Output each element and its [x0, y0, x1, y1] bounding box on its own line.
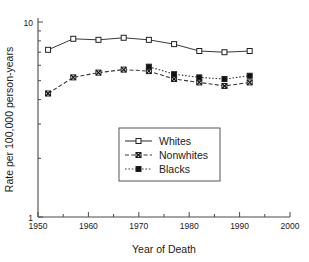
x-tick-label: 2000 [281, 221, 300, 231]
series-whites [46, 35, 253, 54]
data-point [46, 91, 51, 96]
x-tick-label: 1990 [230, 221, 249, 231]
x-axis-title: Year of Death [132, 243, 196, 255]
series-nonwhites [46, 67, 253, 96]
data-point [121, 35, 126, 40]
legend-item-nonwhites[interactable]: Nonwhites [125, 149, 208, 161]
data-point [96, 70, 101, 75]
data-point [247, 49, 252, 54]
x-tick-label: 1980 [180, 221, 199, 231]
data-point [222, 50, 227, 55]
x-tick-label: 1950 [29, 221, 48, 231]
data-point [197, 49, 202, 54]
legend-item-blacks[interactable]: Blacks [125, 163, 190, 175]
y-tick-label: 10 [24, 18, 34, 28]
data-point [222, 77, 227, 82]
legend-marker-open-square [136, 139, 141, 144]
data-point [197, 80, 202, 85]
data-point [172, 42, 177, 47]
data-point [247, 73, 252, 78]
data-point [146, 37, 151, 42]
legend-item-whites[interactable]: Whites [125, 135, 191, 147]
legend-marker-crosshatch-square [136, 153, 141, 158]
data-point [247, 80, 252, 85]
data-point [71, 36, 76, 41]
data-point [172, 77, 177, 82]
series-blacks [146, 64, 252, 81]
data-point [46, 47, 51, 52]
legend-label: Nonwhites [159, 149, 208, 161]
legend-label: Blacks [159, 163, 190, 175]
legend: WhitesNonwhitesBlacks [119, 128, 220, 181]
legend-label: Whites [159, 135, 191, 147]
data-point [96, 37, 101, 42]
legend-marker-filled-square [136, 167, 141, 172]
y-tick-label: 1 [28, 213, 33, 223]
y-axis-title: Rate per 100,000 person-years [3, 47, 15, 192]
data-point [222, 83, 227, 88]
x-tick-label: 1960 [79, 221, 98, 231]
line-chart: 195019601970198019902000110Year of Death… [0, 0, 309, 262]
chart-container: 195019601970198019902000110Year of Death… [0, 0, 309, 262]
data-point [146, 64, 151, 69]
data-point [197, 75, 202, 80]
x-tick-label: 1970 [129, 221, 148, 231]
data-point [172, 72, 177, 77]
data-point [121, 67, 126, 72]
data-point [71, 75, 76, 80]
